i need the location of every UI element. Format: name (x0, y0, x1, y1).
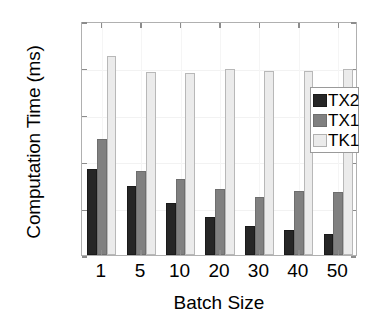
bar-TX2-30 (245, 226, 255, 255)
bar-TX1-20 (215, 189, 225, 255)
y-tick-mark (82, 116, 87, 117)
bar-TX1-30 (255, 197, 265, 255)
bar-TX2-40 (284, 230, 294, 255)
bar-TX2-10 (166, 203, 176, 255)
legend-item-TX2: TX2 (313, 90, 358, 110)
bar-TX1-50 (333, 192, 343, 255)
x-tick-label: 50 (307, 260, 367, 282)
bar-TX1-5 (136, 171, 146, 255)
bar-TK1-10 (185, 73, 195, 255)
bar-TX2-50 (324, 234, 334, 255)
x-tick-mark (298, 250, 299, 255)
x-tick-mark-top (338, 23, 339, 28)
y-tick-mark (82, 163, 87, 164)
legend-swatch-icon (313, 114, 327, 127)
y-tick-mark (82, 256, 87, 257)
bar-TX2-5 (127, 186, 137, 255)
legend-item-TX1: TX1 (313, 110, 358, 130)
y-tick-mark-right (351, 22, 356, 23)
y-axis-label: Computation Time (ms) (23, 22, 45, 262)
x-tick-mark-top (219, 23, 220, 28)
bar-TX1-10 (176, 179, 186, 255)
bar-chart-figure: Computation Time (ms) Batch Size TX2TX1T… (0, 0, 379, 321)
x-tick-mark (338, 250, 339, 255)
x-tick-mark (180, 250, 181, 255)
x-tick-mark-top (140, 23, 141, 28)
legend-swatch-icon (313, 134, 327, 147)
chart-legend: TX2TX1TK1 (310, 87, 359, 153)
bar-TX2-20 (205, 217, 215, 255)
x-tick-mark (101, 250, 102, 255)
y-tick-mark-right (351, 256, 356, 257)
bar-TK1-5 (146, 72, 156, 255)
bar-TX2-1 (87, 169, 97, 255)
bar-TK1-1 (107, 56, 117, 255)
legend-swatch-icon (313, 94, 327, 107)
legend-label: TX2 (328, 92, 359, 109)
gridline-horizontal (82, 70, 356, 71)
gridline-horizontal (82, 163, 356, 164)
bar-TK1-20 (225, 69, 235, 255)
x-tick-mark-top (259, 23, 260, 28)
x-tick-mark-top (298, 23, 299, 28)
x-tick-mark (140, 250, 141, 255)
bar-TX1-1 (97, 139, 107, 255)
bar-TX1-40 (294, 191, 304, 255)
x-tick-mark (259, 250, 260, 255)
y-tick-mark (82, 22, 87, 23)
x-axis-label: Batch Size (81, 292, 357, 314)
bar-TK1-30 (264, 71, 274, 255)
x-tick-mark-top (180, 23, 181, 28)
legend-item-TK1: TK1 (313, 130, 358, 150)
legend-label: TK1 (328, 132, 359, 149)
legend-label: TX1 (328, 112, 359, 129)
x-tick-mark (219, 250, 220, 255)
x-tick-mark-top (101, 23, 102, 28)
y-tick-mark (82, 69, 87, 70)
